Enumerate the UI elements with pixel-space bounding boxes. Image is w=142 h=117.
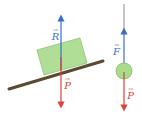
label-R: → R bbox=[51, 27, 60, 42]
force-diagram bbox=[0, 0, 142, 117]
label-F: → F bbox=[112, 42, 121, 57]
label-P-right: → P bbox=[126, 86, 135, 101]
label-P-left: → P bbox=[63, 76, 72, 91]
